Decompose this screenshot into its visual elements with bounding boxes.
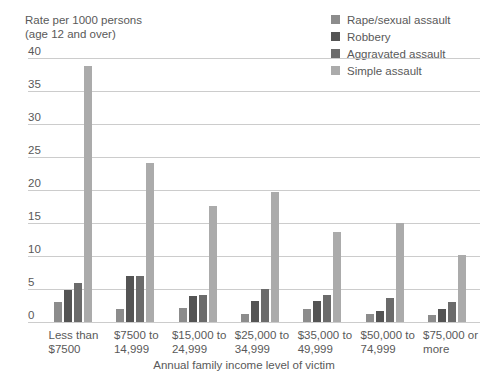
bar-group	[229, 58, 291, 322]
y-tick-label: 0	[28, 309, 34, 322]
bar	[458, 255, 466, 322]
x-label-cell: $7500 to14,999	[105, 328, 168, 356]
bar	[84, 66, 92, 322]
bar-group	[42, 58, 104, 322]
x-label-cell: $50,000 to74,999	[356, 328, 419, 356]
x-label-cell: $25,000 to34,999	[231, 328, 294, 356]
bar	[64, 290, 72, 322]
x-axis-title: Annual family income level of victim	[0, 359, 488, 371]
bar	[303, 309, 311, 322]
bar-group	[104, 58, 166, 322]
legend-swatch-icon	[331, 32, 340, 41]
legend-label: Rape/sexual assault	[347, 14, 451, 26]
y-axis-title-line1: Rate per 1000 persons	[25, 13, 142, 27]
bar	[199, 295, 207, 322]
bar	[136, 276, 144, 322]
bar	[146, 163, 154, 322]
bar	[241, 314, 249, 322]
bar	[366, 314, 374, 322]
bars	[42, 58, 478, 322]
y-axis-title: Rate per 1000 persons (age 12 and over)	[25, 13, 142, 41]
bar	[333, 232, 341, 322]
bar	[179, 308, 187, 322]
bar	[74, 283, 82, 322]
y-tick-label: 35	[28, 78, 41, 91]
y-tick-label: 15	[28, 210, 41, 223]
x-label-cell: Less than$7500	[42, 328, 105, 356]
bar-group	[167, 58, 229, 322]
bar-group	[291, 58, 353, 322]
legend-swatch-icon	[331, 15, 340, 24]
bar	[251, 301, 259, 322]
bar	[438, 309, 446, 322]
x-category-label: $7500 to14,999	[114, 328, 159, 356]
x-category-label: $25,000 to34,999	[235, 328, 289, 356]
bar	[54, 302, 62, 322]
legend-label: Robbery	[347, 31, 390, 43]
bar	[126, 276, 134, 322]
bar	[428, 315, 436, 322]
bar	[261, 289, 269, 322]
y-axis-title-line2: (age 12 and over)	[25, 27, 142, 41]
bar	[313, 301, 321, 322]
x-label-cell: $15,000 to24,999	[168, 328, 231, 356]
y-tick-label: 30	[28, 111, 41, 124]
bar	[376, 311, 384, 322]
x-label-cell: $75,000 ormore	[419, 328, 482, 356]
x-category-label: $50,000 to74,999	[361, 328, 415, 356]
x-axis-category-labels: Less than$7500$7500 to14,999$15,000 to24…	[42, 328, 482, 356]
bar-group	[353, 58, 415, 322]
legend-swatch-icon	[331, 49, 340, 58]
bar	[396, 223, 404, 322]
x-category-label: $35,000 to49,999	[298, 328, 352, 356]
bar	[448, 302, 456, 322]
y-tick-label: 40	[28, 45, 41, 58]
x-category-label: $15,000 to24,999	[172, 328, 226, 356]
bar	[386, 298, 394, 322]
bar-chart-victimization-by-income: Rate per 1000 persons (age 12 and over) …	[0, 0, 488, 385]
bar	[189, 296, 197, 322]
x-category-label: $75,000 ormore	[423, 328, 478, 356]
y-tick-label: 10	[28, 243, 41, 256]
bar-group	[416, 58, 478, 322]
bar	[116, 309, 124, 322]
bar	[209, 206, 217, 322]
x-label-cell: $35,000 to49,999	[293, 328, 356, 356]
legend-item: Robbery	[331, 28, 451, 45]
bar	[271, 192, 279, 322]
plot-area: 4035302520151050	[28, 58, 480, 322]
gridline	[28, 322, 480, 323]
bar	[323, 295, 331, 322]
y-tick-label: 5	[28, 276, 34, 289]
y-tick-label: 20	[28, 177, 41, 190]
legend-item: Rape/sexual assault	[331, 11, 451, 28]
x-category-label: Less than$7500	[48, 328, 98, 356]
y-tick-label: 25	[28, 144, 41, 157]
